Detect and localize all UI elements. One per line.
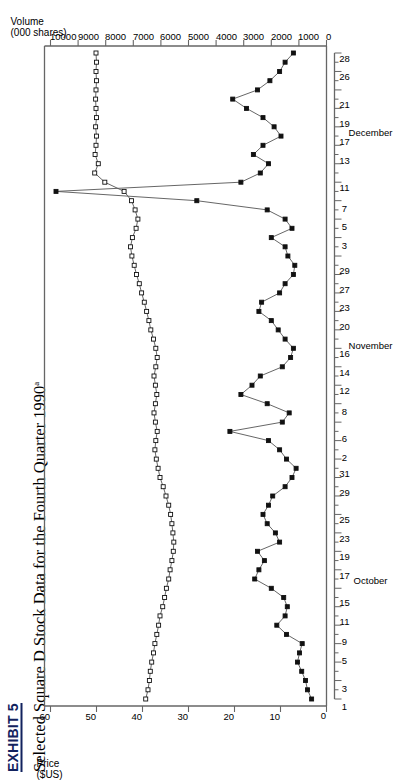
volume-tick-label: 2000: [270, 31, 291, 42]
volume-axis-caption-line2: (000 shares): [10, 27, 66, 38]
volume-tick-label: 7000: [132, 31, 153, 42]
volume-axis-caption-line1: Volume: [10, 16, 66, 27]
price-tick-label: 30: [177, 711, 188, 722]
price-tick-label: 50: [85, 711, 96, 722]
price-tick-label: 40: [131, 711, 142, 722]
chart-canvas: [44, 46, 326, 706]
price-axis-caption: Price($US): [36, 758, 62, 780]
volume-tick-label: 8000: [105, 31, 126, 42]
title-block: EXHIBIT 5 Selected Square D Stock Data f…: [3, 252, 49, 772]
footnote-marker: a: [30, 382, 40, 386]
exhibit-label: EXHIBIT 5: [5, 703, 22, 772]
price-tick-label: 60: [39, 711, 50, 722]
volume-tick-label: 1000: [298, 31, 319, 42]
price-tick-label: 20: [223, 711, 234, 722]
price-tick-label: 10: [269, 711, 280, 722]
volume-tick-label: 5000: [188, 31, 209, 42]
price-axis-caption-line1: Price: [36, 758, 62, 769]
volume-tick-label: 3000: [243, 31, 264, 42]
volume-axis-caption: Volume(000 shares): [10, 16, 66, 38]
price-axis-caption-line2: ($US): [36, 769, 62, 780]
chart-plot-area: 0102030405060010002000300040005000600070…: [44, 46, 326, 706]
date-axis: [328, 6, 397, 706]
volume-tick-label: 4000: [215, 31, 236, 42]
volume-tick-label: 9000: [77, 31, 98, 42]
volume-tick-label: 6000: [160, 31, 181, 42]
price-tick-label: 0: [320, 711, 325, 722]
